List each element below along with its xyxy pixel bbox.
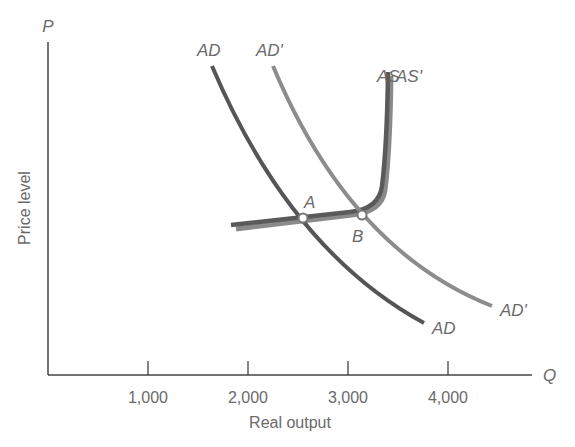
- x-tick-label: 2,000: [228, 389, 268, 406]
- equilibrium-point-a: [299, 214, 308, 223]
- ad-label-top: AD: [196, 41, 221, 60]
- ad-label-bottom: AD: [431, 319, 456, 338]
- point-label-a: A: [303, 193, 315, 212]
- y-axis-title: Price level: [16, 171, 33, 245]
- y-axis-symbol: P: [42, 17, 54, 36]
- x-axis-title: Real output: [249, 414, 331, 431]
- ad-prime-label-bottom: AD': [499, 301, 528, 320]
- point-label-b: B: [352, 227, 363, 246]
- x-tick-label: 3,000: [328, 389, 368, 406]
- x-tick-label: 4,000: [428, 389, 468, 406]
- chart: 1,000 2,000 3,000 4,000 Real output Pric…: [0, 0, 575, 447]
- ad-prime-label-top: AD': [255, 41, 284, 60]
- x-axis-symbol: Q: [543, 366, 556, 385]
- equilibrium-point-b: [358, 211, 367, 220]
- x-tick-label: 1,000: [128, 389, 168, 406]
- as-prime-label: AS': [395, 67, 423, 86]
